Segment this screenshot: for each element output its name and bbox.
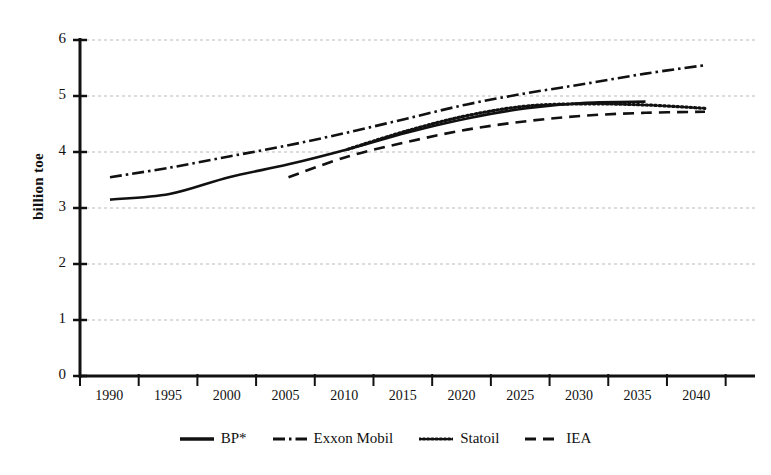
series-line-bp [110, 102, 646, 200]
chart-legend: BP*Exxon MobilStatoilIEA [0, 430, 771, 447]
series-line-iea [289, 112, 706, 178]
legend-item-iea[interactable]: IEA [525, 430, 591, 447]
legend-label: BP* [221, 430, 247, 447]
legend-item-bp[interactable]: BP* [180, 430, 247, 447]
x-axis-tick-label: 2020 [432, 388, 492, 404]
y-axis-tick-label: 5 [40, 86, 66, 103]
y-axis-tick-label: 2 [40, 254, 66, 271]
y-axis-tick-label: 3 [40, 198, 66, 215]
y-axis-tick-label: 0 [40, 366, 66, 383]
legend-item-statoil[interactable]: Statoil [419, 430, 499, 447]
gridlines [80, 40, 755, 320]
legend-label: Statoil [460, 430, 499, 447]
data-series-group [110, 65, 705, 199]
x-axis-tick-label: 2040 [666, 388, 726, 404]
legend-swatch-dashed-icon [525, 433, 559, 445]
x-axis-tick-label: 2005 [255, 388, 315, 404]
y-axis-tick-label: 6 [40, 30, 66, 47]
x-axis-tick-label: 2010 [314, 388, 374, 404]
x-axis-tick-label: 2015 [373, 388, 433, 404]
y-axis-tick-label: 1 [40, 310, 66, 327]
legend-swatch-dotted-icon [419, 433, 453, 445]
legend-swatch-solid-icon [180, 433, 214, 445]
x-axis-tick-label: 2000 [197, 388, 257, 404]
line-chart: billion toe 6543210 19901995200020052010… [0, 0, 771, 475]
legend-item-exxon-mobil[interactable]: Exxon Mobil [273, 430, 394, 447]
legend-label: IEA [566, 430, 591, 447]
x-axis-tick-label: 2035 [608, 388, 668, 404]
series-line-exxon-mobil [110, 65, 705, 177]
x-axis-tick-label: 2030 [549, 388, 609, 404]
y-axis-tick-label: 4 [40, 142, 66, 159]
legend-swatch-dash-dot-icon [273, 433, 307, 445]
x-axis-tick-label: 1995 [138, 388, 198, 404]
x-axis-tick-label: 1990 [79, 388, 139, 404]
legend-label: Exxon Mobil [314, 430, 394, 447]
x-axis-tick-label: 2025 [490, 388, 550, 404]
